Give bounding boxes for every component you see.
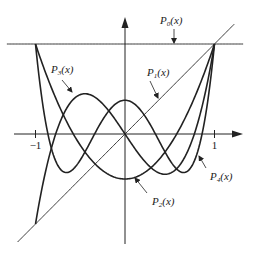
x-tick-label: −1 (30, 139, 42, 151)
svg-text:P1(x): P1(x) (146, 66, 170, 80)
label-p3: P3(x) (50, 63, 74, 92)
arrow-icon (199, 156, 206, 168)
x-axis-arrow-icon (232, 131, 243, 138)
svg-text:P0(x): P0(x) (159, 14, 183, 28)
svg-text:P2(x): P2(x) (151, 195, 175, 209)
svg-text:P4(x): P4(x) (209, 170, 233, 184)
label-p4: P4(x) (199, 156, 233, 184)
arrow-icon (135, 178, 147, 193)
x-tick-label: 1 (212, 139, 218, 151)
arrow-icon (62, 80, 72, 92)
label-p0: P0(x) (159, 14, 183, 43)
arrow-icon (150, 81, 158, 98)
legendre-chart: −11 P0(x)P1(x)P3(x)P4(x)P2(x) (0, 0, 254, 255)
label-p2: P2(x) (135, 178, 175, 209)
y-axis-arrow-icon (122, 17, 129, 28)
label-p1: P1(x) (146, 66, 170, 98)
svg-text:P3(x): P3(x) (50, 63, 74, 77)
